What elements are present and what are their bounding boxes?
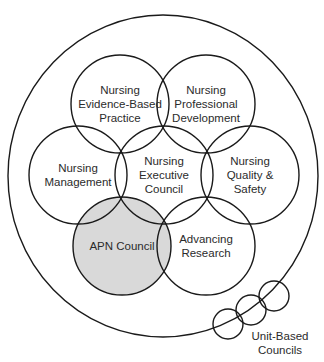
unit-based-label-line: Unit-Based <box>252 330 309 342</box>
council-label-line: Management <box>44 176 112 188</box>
unit-based-councils-label: Unit-BasedCouncils <box>252 330 309 356</box>
council-label-exec: NursingExecutiveCouncil <box>139 155 189 195</box>
council-label-pd: NursingProfessionalDevelopment <box>172 84 241 124</box>
council-label-line: Safety <box>234 183 267 195</box>
council-label-line: Advancing <box>179 233 233 245</box>
unit-based-council-circle <box>236 295 266 325</box>
council-label-line: Nursing <box>58 162 98 174</box>
council-label-line: Evidence-Based <box>78 98 162 110</box>
council-label-line: Research <box>181 247 230 259</box>
council-circle-mgmt <box>29 126 127 224</box>
council-label-line: Nursing <box>230 155 270 167</box>
council-label-line: Nursing <box>100 84 140 96</box>
council-label-line: Professional <box>174 98 237 110</box>
council-label-qs: NursingQuality &Safety <box>227 155 274 195</box>
council-label-line: Council <box>145 183 183 195</box>
council-circles: NursingEvidence-BasedPracticeNursingProf… <box>29 55 299 295</box>
council-label-line: Practice <box>99 112 141 124</box>
unit-based-council-circle <box>259 281 289 311</box>
council-label-line: Nursing <box>186 84 226 96</box>
shared-governance-diagram: NursingEvidence-BasedPracticeNursingProf… <box>0 0 324 362</box>
unit-based-councils: Unit-BasedCouncils <box>213 281 308 356</box>
unit-based-council-circle <box>213 309 243 339</box>
unit-based-label-line: Councils <box>258 344 302 356</box>
council-label-line: Development <box>172 112 241 124</box>
council-label-line: Nursing <box>144 155 184 167</box>
council-label-line: Executive <box>139 169 189 181</box>
council-label-research: AdvancingResearch <box>179 233 233 259</box>
council-label-line: Quality & <box>227 169 274 181</box>
council-label-mgmt: NursingManagement <box>44 162 112 188</box>
council-label-apn: APN Council <box>89 240 154 252</box>
council-label-line: APN Council <box>89 240 154 252</box>
council-label-ebp: NursingEvidence-BasedPractice <box>78 84 162 124</box>
